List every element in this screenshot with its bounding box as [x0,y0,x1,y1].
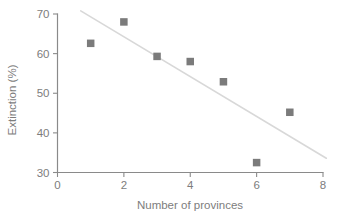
data-markers-group [87,18,294,166]
y-ticks-group: 3040506070 [37,8,58,179]
x-tick-label: 4 [187,179,194,191]
chart-canvas: 3040506070 02468 Number of provinces Ext… [0,0,338,220]
x-tick-label: 2 [121,179,127,191]
y-tick-label: 50 [37,87,50,99]
data-point-marker [253,159,261,167]
scatter-chart-figure: 3040506070 02468 Number of provinces Ext… [0,0,338,220]
y-axis-title: Extinction (%) [6,64,18,135]
trend-line-group [81,11,327,158]
data-point-marker [286,109,294,117]
y-tick-label: 30 [37,167,50,179]
data-point-marker [220,78,228,86]
x-tick-label: 6 [253,179,259,191]
data-point-marker [153,53,161,61]
regression-trend-line [81,11,327,158]
y-tick-label: 70 [37,8,50,20]
data-point-marker [187,58,195,66]
x-tick-label: 8 [320,179,326,191]
data-point-marker [120,18,128,26]
y-tick-label: 60 [37,48,50,60]
axes-group [57,14,323,173]
x-ticks-group: 02468 [54,173,326,191]
x-axis-title: Number of provinces [137,199,243,211]
x-tick-label: 0 [54,179,60,191]
data-point-marker [87,40,95,48]
y-tick-label: 40 [37,127,50,139]
